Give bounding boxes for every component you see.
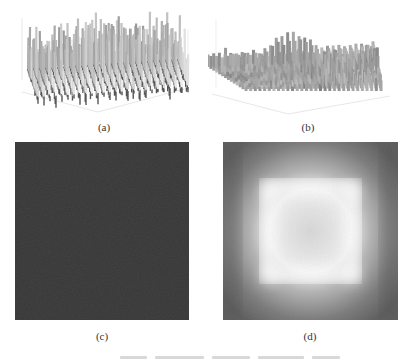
surface-plot-a xyxy=(18,10,193,115)
panel-d-intensity-map xyxy=(223,142,398,320)
panel-d-label: (d) xyxy=(290,330,330,342)
intensity-map-c xyxy=(15,142,189,320)
panel-c-intensity-map xyxy=(15,142,189,320)
panel-b-label: (b) xyxy=(288,121,328,133)
panel-a-surface-plot xyxy=(18,10,193,115)
surface-plot-b xyxy=(208,10,403,115)
panel-c-label: (c) xyxy=(82,330,122,342)
panel-a-label: (a) xyxy=(84,121,124,133)
intensity-map-d xyxy=(223,142,398,320)
figure-caption-faint xyxy=(120,353,340,361)
panel-b-surface-plot xyxy=(208,10,403,115)
